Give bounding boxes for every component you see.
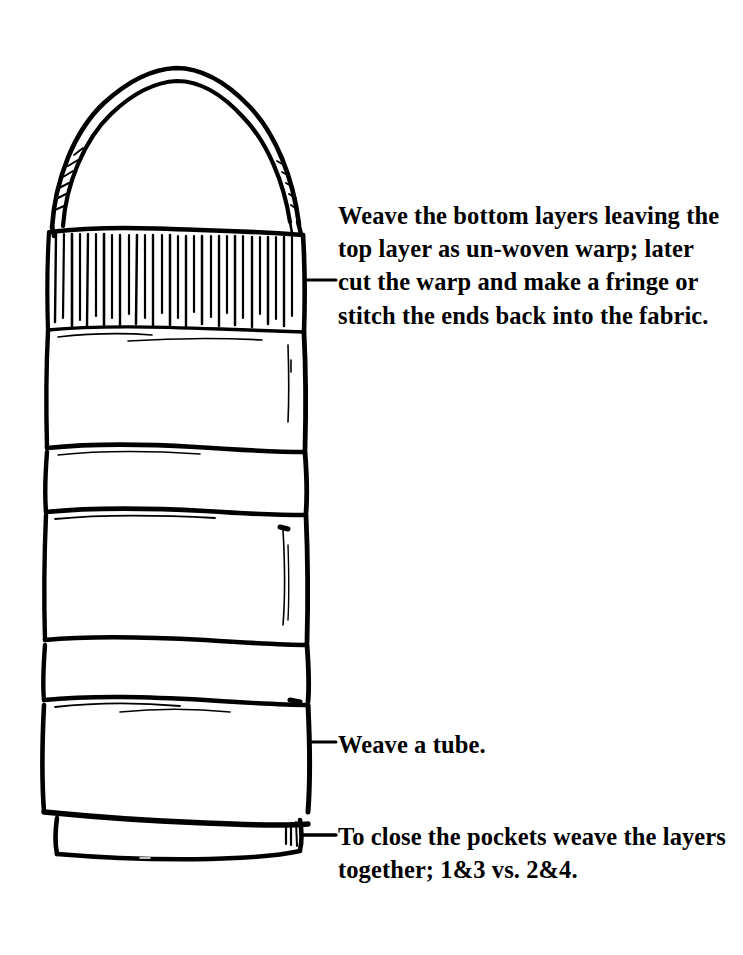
annotation-pockets-text: To close the pockets weave the layers to… — [338, 820, 730, 886]
weaving-diagram-illustration — [0, 0, 743, 955]
canvas-background — [0, 0, 743, 955]
annotation-tube-text: Weave a tube. — [338, 728, 718, 761]
annotation-warp-text: Weave the bottom layers leaving the top … — [338, 199, 730, 332]
